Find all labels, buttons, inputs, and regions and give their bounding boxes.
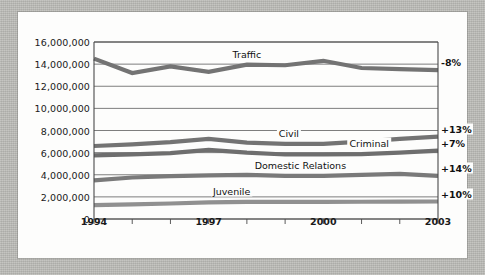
y-tick-label: 6,000,000 [41, 147, 90, 158]
chart-card: 02,000,0004,000,0006,000,0008,000,00010,… [18, 12, 467, 258]
percent-change-label: +10% [440, 188, 473, 199]
x-axis-tick-labels: 1994199720002003 [18, 216, 467, 236]
series-line-criminal [94, 150, 438, 156]
y-tick-label: 16,000,000 [35, 37, 90, 48]
x-tick-label: 2000 [310, 216, 336, 227]
series-label: Juvenile [211, 185, 252, 196]
series-label: Civil [277, 127, 301, 138]
y-tick-label: 4,000,000 [41, 169, 90, 180]
percent-change-label: +14% [440, 162, 473, 173]
percent-change-label: +13% [440, 123, 473, 134]
x-tick-label: 2003 [425, 216, 451, 227]
y-tick-label: 10,000,000 [35, 103, 90, 114]
series-label: Traffic [231, 48, 264, 59]
series-label: Criminal [347, 138, 391, 149]
line-chart-figure: 02,000,0004,000,0006,000,0008,000,00010,… [18, 12, 467, 258]
series-lines [94, 59, 438, 206]
x-tick-label: 1994 [81, 216, 107, 227]
y-tick-label: 8,000,000 [41, 125, 90, 136]
percent-change-label: +7% [440, 137, 466, 148]
y-tick-label: 14,000,000 [35, 59, 90, 70]
y-tick-label: 2,000,000 [41, 191, 90, 202]
x-tick-label: 1997 [195, 216, 221, 227]
y-tick-label: 12,000,000 [35, 81, 90, 92]
series-line-juvenile [94, 202, 438, 206]
series-label: Domestic Relations [253, 159, 348, 170]
series-line-traffic [94, 59, 438, 73]
percent-change-label: -8% [440, 57, 462, 68]
